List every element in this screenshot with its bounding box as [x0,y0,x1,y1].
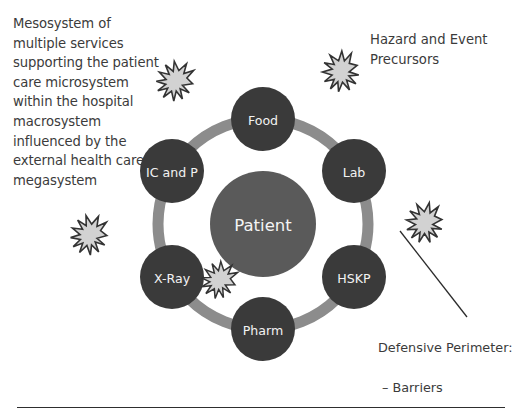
perimeter-item-barriers: – Barriers [378,378,522,398]
starburst-icon-right [404,201,445,245]
node-label-hskp: HSKP [337,271,371,286]
figure-divider-rule [17,407,505,408]
perimeter-title: Defensive Perimeter: [378,338,522,358]
starburst-icon-left [69,214,108,256]
node-label-pharm: Pharm [243,323,284,338]
perimeter-leader-line [400,231,467,317]
starburst-icon-upper-right [317,48,363,97]
starburst-icon-upper-left [153,58,196,104]
figure-canvas: Mesosystem of multiple services supporti… [0,0,522,418]
defensive-perimeter-annotation: Defensive Perimeter: – Barriers – Contro… [378,318,522,418]
node-label-xray: X-Ray [154,271,191,286]
node-label-food: Food [248,113,278,128]
node-label-lab: Lab [343,165,366,180]
patient-label: Patient [234,216,292,235]
node-label-ic-and-p: IC and P [146,165,198,180]
